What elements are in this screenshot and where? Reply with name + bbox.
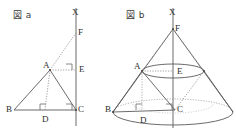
figure-a-label-E: E	[79, 64, 85, 74]
figure-b-caption: 図 b	[126, 8, 145, 21]
figure-a-label-B: B	[6, 104, 12, 114]
diagram-canvas: 図 a 図 b X F A E B D C X F A E B D C	[0, 0, 236, 133]
figure-b-label-X: X	[169, 7, 176, 17]
figure-a-label-F: F	[78, 27, 83, 37]
figure-b-vertex-B	[112, 111, 114, 113]
figure-a-label-X: X	[72, 7, 79, 17]
figure-b-group	[112, 8, 233, 128]
figure-b-vertex-A	[141, 70, 143, 72]
figure-b-label-F: F	[175, 23, 180, 33]
figure-b-label-E: E	[177, 66, 183, 76]
figure-a-right-angle-C	[66, 104, 72, 110]
figure-a-caption: 図 a	[13, 8, 32, 21]
figure-a-label-A: A	[43, 60, 50, 70]
figure-b-segment-AB	[113, 71, 142, 112]
figure-b-label-D: D	[140, 115, 147, 125]
figure-a-right-angle-E	[66, 64, 72, 70]
figure-b-vertex-F	[172, 28, 174, 30]
figure-a-vertex-C	[75, 109, 77, 111]
figure-b-segment-ApBp	[204, 71, 233, 112]
figure-a-label-C: C	[78, 104, 84, 114]
figure-b-vertex-A-prime	[203, 70, 205, 72]
figure-b-label-A: A	[134, 61, 141, 71]
figure-a-label-D: D	[42, 114, 49, 124]
figure-b-label-B: B	[105, 104, 111, 114]
figure-b-label-C: C	[177, 104, 183, 114]
geometry-figures-svg	[0, 0, 236, 133]
